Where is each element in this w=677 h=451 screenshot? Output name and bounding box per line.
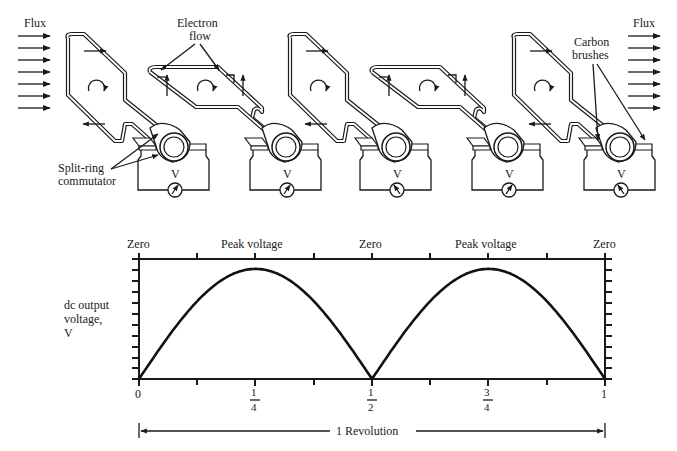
- svg-text:1: 1: [368, 386, 374, 398]
- commutator-label-line1: Split-ring: [58, 161, 104, 175]
- electron-flow-label-line1: Electron: [177, 16, 218, 30]
- flux-arrows-left-icon: [18, 36, 50, 108]
- voltmeter-label: V: [283, 167, 292, 181]
- x-tick-quarter: 1 4: [250, 386, 260, 413]
- top-label-zero-3: Zero: [593, 237, 616, 251]
- flux-right-label: Flux: [633, 16, 655, 30]
- electron-flow-callout: Electron flow: [161, 16, 219, 70]
- voltmeter-label: V: [617, 167, 626, 181]
- carbon-brushes-label-line2: brushes: [572, 48, 609, 62]
- y-axis-label-line3: V: [64, 326, 73, 340]
- svg-text:4: 4: [251, 401, 257, 413]
- x-tick-1: 1: [601, 387, 607, 401]
- stage-3: V: [290, 34, 432, 197]
- y-axis-label-line1: dc output: [64, 298, 110, 312]
- svg-text:1: 1: [251, 386, 257, 398]
- flux-left-label: Flux: [24, 16, 46, 30]
- top-label-peak-2: Peak voltage: [455, 237, 517, 251]
- top-label-zero-2: Zero: [359, 237, 382, 251]
- top-label-peak-1: Peak voltage: [221, 237, 283, 251]
- x-tick-0: 0: [135, 387, 141, 401]
- flux-left: Flux: [18, 16, 50, 108]
- x-tick-half: 1 2: [367, 386, 377, 413]
- svg-text:4: 4: [484, 401, 490, 413]
- svg-text:2: 2: [368, 401, 374, 413]
- voltage-chart: Zero Peak voltage Zero Peak voltage Zero…: [64, 237, 616, 438]
- dc-output-curve: [139, 269, 605, 379]
- revolution-bracket: 1 Revolution: [139, 423, 605, 438]
- right-y-ticks: [605, 270, 612, 368]
- x-axis-label: 1 Revolution: [336, 424, 398, 438]
- flux-arrows-right-icon: [628, 36, 660, 108]
- flux-right: Flux: [628, 16, 660, 108]
- svg-text:3: 3: [484, 386, 490, 398]
- electron-flow-label-line2: flow: [189, 29, 211, 43]
- voltmeter-label: V: [171, 167, 180, 181]
- voltmeter-label: V: [505, 167, 514, 181]
- left-y-ticks: [132, 270, 139, 368]
- commutator-label-line2: commutator: [58, 174, 116, 188]
- y-axis-label-line2: voltage,: [64, 312, 102, 326]
- voltmeter-label: V: [393, 167, 402, 181]
- x-tick-three-quarters: 3 4: [483, 386, 493, 413]
- generator-diagram: Flux Flux: [0, 0, 677, 451]
- top-label-zero-1: Zero: [127, 237, 150, 251]
- carbon-brushes-label-line1: Carbon: [574, 35, 609, 49]
